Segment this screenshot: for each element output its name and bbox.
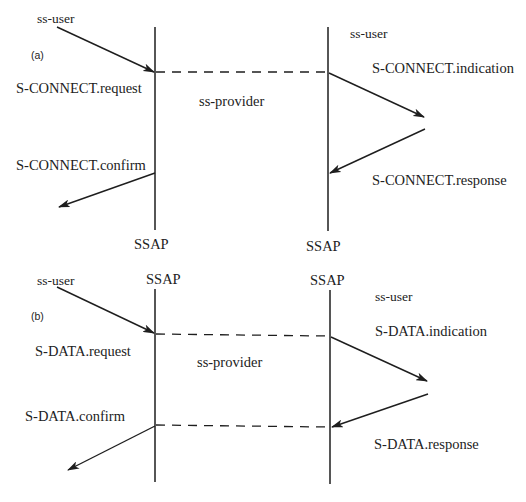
indication-label-b: S-DATA.indication — [375, 324, 487, 339]
left-ss-user-label-b: ss-user — [37, 274, 75, 288]
confirm-arrow-b — [68, 426, 155, 470]
right-ss-user-label-b: ss-user — [375, 290, 413, 304]
request-arrow-b — [57, 287, 154, 333]
confirm-label-b: S-DATA.confirm — [25, 409, 125, 424]
left-sap-label-a: SSAP — [134, 237, 169, 252]
right-sap-label-a: SSAP — [306, 239, 341, 254]
left-sap-label-b: SSAP — [146, 272, 181, 287]
right-ss-user-label-a: ss-user — [350, 27, 388, 41]
provider-label-b: ss-provider — [197, 355, 262, 370]
right-sap-label-b: SSAP — [310, 273, 345, 288]
response-arrow-a — [330, 129, 425, 173]
provider-dashed-line-b-bottom — [156, 425, 328, 427]
panel-b-tag: (b) — [31, 311, 44, 322]
response-arrow-b — [332, 394, 428, 427]
panel-a-tag: (a) — [31, 50, 44, 61]
left-ss-user-label-a: ss-user — [37, 12, 75, 26]
confirm-label-a: S-CONNECT.confirm — [16, 158, 146, 173]
provider-dashed-line-b-top — [156, 334, 328, 336]
panel-a-lines — [57, 27, 425, 231]
indication-label-a: S-CONNECT.indication — [372, 61, 514, 76]
provider-label-a: ss-provider — [199, 94, 264, 109]
response-label-a: S-CONNECT.response — [372, 173, 507, 188]
response-label-b: S-DATA.response — [374, 437, 479, 452]
indication-arrow-a — [329, 73, 424, 117]
request-arrow-a — [57, 27, 154, 72]
request-label-a: S-CONNECT.request — [16, 81, 142, 96]
indication-arrow-b — [331, 337, 427, 381]
request-label-b: S-DATA.request — [35, 344, 131, 359]
panel-b-lines — [57, 287, 428, 484]
confirm-arrow-a — [59, 173, 155, 207]
